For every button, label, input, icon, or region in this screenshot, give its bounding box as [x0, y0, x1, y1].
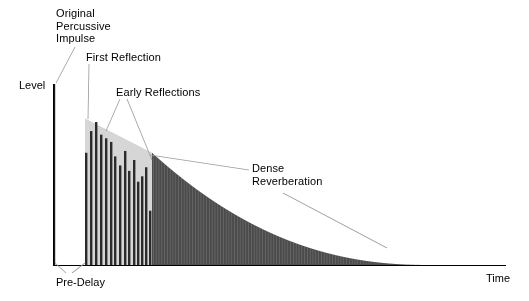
impulse-response-plot [0, 0, 529, 301]
x-axis-label: Time [486, 272, 510, 284]
annotation-dense-reverberation: Dense Reverberation [252, 162, 322, 187]
annotation-original-percussive-impulse: Original Percussive Impulse [56, 7, 111, 45]
annotation-pre-delay: Pre-Delay [56, 276, 105, 288]
annotation-early-reflections: Early Reflections [116, 86, 200, 99]
reverberation-diagram: Original Percussive Impulse First Reflec… [0, 0, 529, 301]
y-axis-label: Level [19, 79, 45, 91]
annotation-first-reflection: First Reflection [86, 51, 161, 64]
